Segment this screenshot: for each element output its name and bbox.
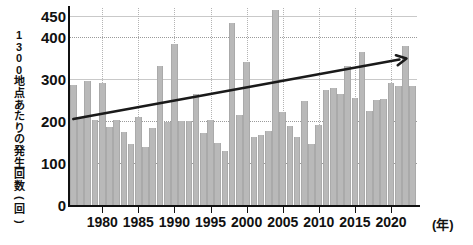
bar [84,81,91,205]
bar [366,111,373,205]
y-axis-label-char: ( [13,187,25,209]
bar [222,151,229,205]
bar [330,88,337,205]
x-axis-tick-mark [319,207,320,213]
chart-figure: 1300地点あたりの発生回数(回) 0100200300400450 19801… [0,0,473,245]
x-axis-tick-label: 2020 [375,214,406,230]
bar [265,131,272,205]
x-axis-tick-mark [283,207,284,213]
bar [214,143,221,205]
bar [337,94,344,205]
x-axis-tick-mark [247,207,248,213]
y-axis-tick-label: 450 [26,8,66,25]
y-axis-tick-label: 100 [26,155,66,172]
bar [315,125,322,205]
bar [157,66,164,205]
bar [70,85,77,205]
bar [178,121,185,205]
bar [186,121,193,205]
y-axis-label-char: ) [13,210,25,232]
x-axis-tick-label: 2015 [339,214,370,230]
bar [113,120,120,205]
x-axis-tick-mark [102,207,103,213]
bar [171,44,178,205]
bar [92,120,99,205]
bar [149,128,156,205]
x-axis-tick-label: 1990 [159,214,190,230]
bar [200,133,207,205]
x-axis-tick-label: 1995 [195,214,226,230]
bar [402,46,409,205]
y-axis-line [68,6,70,207]
y-axis-tick-label: 400 [26,29,66,46]
bar [279,112,286,205]
x-axis-tick-label: 1980 [87,214,118,230]
bar [323,90,330,205]
bar [106,127,113,205]
x-axis-tick-mark [391,207,392,213]
bar [236,115,243,205]
bar [409,86,416,205]
bar [229,23,236,205]
x-axis-line [68,205,420,207]
gridline-horizontal-major [69,16,417,17]
bar [344,66,351,205]
bar [142,147,149,205]
bar [287,126,294,205]
bar [294,137,301,205]
x-axis-tick-mark [355,207,356,213]
bar [207,120,214,205]
y-axis-tick-label: 0 [26,197,66,214]
bar [301,101,308,205]
bar [272,10,279,205]
bar [193,94,200,205]
bar [395,86,402,205]
bar [308,144,315,205]
x-axis-tick-label: 2000 [231,214,262,230]
x-axis-tick-label: 1985 [123,214,154,230]
x-axis-tick-mark [138,207,139,213]
y-axis-tick-labels: 0100200300400450 [26,0,66,245]
bar [77,118,84,205]
bar [243,62,250,205]
bar [380,99,387,205]
y-axis-tick-label: 300 [26,71,66,88]
y-axis-tick-label: 200 [26,113,66,130]
bar [388,83,395,205]
gridline-horizontal [69,37,417,38]
plot-area [69,8,417,205]
x-axis-tick-mark [174,207,175,213]
x-axis-unit-label: (年) [432,214,454,233]
bar [258,135,265,205]
bar [164,122,171,205]
x-axis-tick-mark [211,207,212,213]
bar [128,144,135,205]
bar [359,52,366,205]
bar [135,117,142,205]
plot-inner [69,8,417,205]
x-axis-tick-label: 2010 [303,214,334,230]
bar [251,137,258,205]
bar [373,100,380,205]
x-axis-tick-label: 2005 [267,214,298,230]
bar [352,98,359,205]
bar [99,83,106,205]
bar [121,132,128,205]
